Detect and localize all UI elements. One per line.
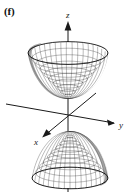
panel-label: (f) xyxy=(4,6,14,17)
hyperboloid-diagram: y x z xyxy=(0,0,129,194)
axis-y: y xyxy=(6,104,123,130)
figure-panel: (f) y x xyxy=(0,0,129,194)
axis-z-arrowhead xyxy=(65,21,72,31)
lower-sheet xyxy=(32,131,108,189)
axis-z-label: z xyxy=(65,10,70,20)
axis-x-line xyxy=(44,93,96,136)
upper-sheet xyxy=(28,42,108,99)
axis-y-label: y xyxy=(118,120,123,130)
axis-x-label: x xyxy=(33,137,38,147)
axis-y-line xyxy=(6,104,114,123)
